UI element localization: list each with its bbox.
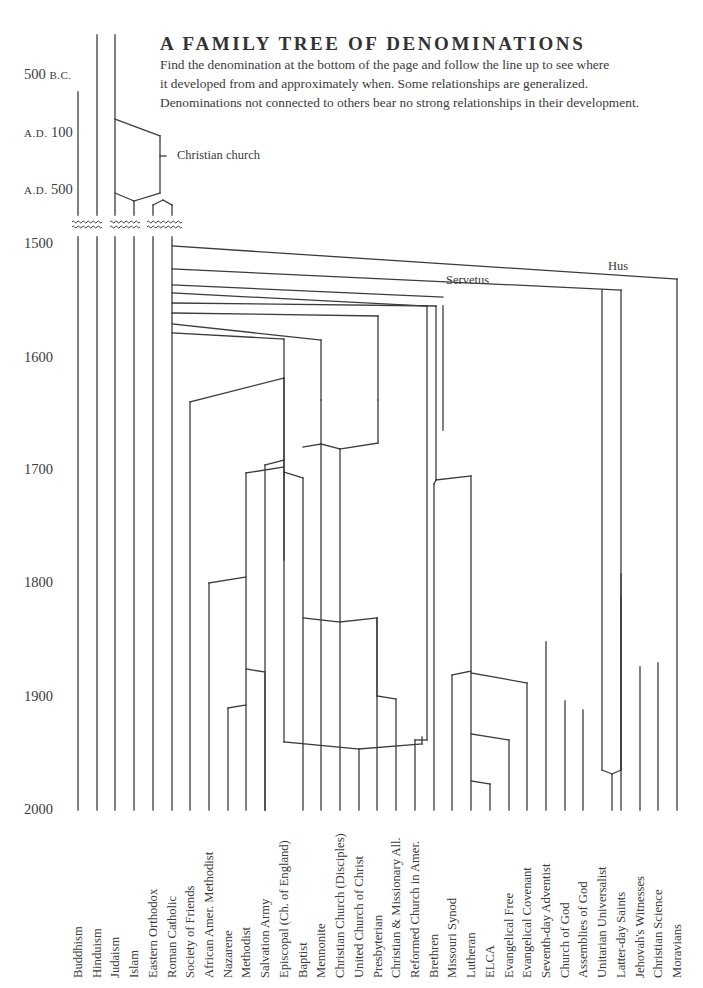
denomination-name: Evangelical Covenant xyxy=(520,867,535,978)
denomination-label: Moravians xyxy=(669,828,685,978)
denomination-label: Judaism xyxy=(107,828,123,978)
denomination-label: Reformed Church in Amer. xyxy=(407,828,423,978)
denomination-label: Lutheran xyxy=(463,828,479,978)
denomination-name: Buddhism xyxy=(71,926,86,978)
denomination-name: United Church of Christ xyxy=(351,856,366,978)
denomination-name: Christian Science xyxy=(651,890,666,978)
denomination-name: Hinduism xyxy=(89,928,104,978)
denomination-label: Salvation Army xyxy=(257,828,273,978)
denomination-label: Episcopal (Ch. of England) xyxy=(276,828,292,978)
denomination-label: ELCA xyxy=(482,828,498,978)
denomination-name: Judaism xyxy=(108,937,123,978)
denomination-label: Buddhism xyxy=(70,828,86,978)
label-hus: Hus xyxy=(608,259,628,274)
denomination-label: Evangelical Free xyxy=(501,828,517,978)
denomination-name: Society of Friends xyxy=(183,886,198,978)
denomination-name: Evangelical Free xyxy=(501,893,516,978)
denomination-name: Nazarene xyxy=(220,930,235,978)
label-servetus: Servetus xyxy=(446,273,489,288)
denomination-label: Latter-day Saints xyxy=(613,828,629,978)
denomination-label: Hinduism xyxy=(89,828,105,978)
denomination-name: Salvation Army xyxy=(258,899,273,978)
denomination-name: Presbyterian xyxy=(370,915,385,978)
denomination-label: Evangelical Covenant xyxy=(519,828,535,978)
denomination-label: Methodist xyxy=(238,828,254,978)
denomination-label: Missouri Synod xyxy=(444,828,460,978)
denomination-label: African Amer. Methodist xyxy=(201,828,217,978)
denomination-label: Seventh-day Adventist xyxy=(538,828,554,978)
denomination-label: Unitarian Universalist xyxy=(594,828,610,978)
denomination-name: ELCA xyxy=(482,945,497,978)
denomination-label: Mennonite xyxy=(313,828,329,978)
denomination-label: Islam xyxy=(126,828,142,978)
denomination-name: Methodist xyxy=(239,927,254,978)
denomination-name: Episcopal (Ch. of England) xyxy=(276,840,291,978)
denomination-label: Presbyterian xyxy=(370,828,386,978)
denomination-name: African Amer. Methodist xyxy=(202,852,217,978)
denomination-name: Church of God xyxy=(557,902,572,978)
denomination-name: Baptist xyxy=(295,942,310,978)
denomination-name: Moravians xyxy=(670,924,685,978)
denomination-label: Baptist xyxy=(295,828,311,978)
denomination-name: Seventh-day Adventist xyxy=(539,864,554,978)
denomination-label: Eastern Orthodox xyxy=(145,828,161,978)
denomination-name: Unitarian Universalist xyxy=(595,866,610,978)
denomination-label: Assemblies of God xyxy=(575,828,591,978)
label-christian-church: Christian church xyxy=(177,148,260,163)
denomination-name: Eastern Orthodox xyxy=(145,889,160,978)
denomination-label: Church of God xyxy=(557,828,573,978)
denomination-name: Christian & Missionary All. xyxy=(389,837,404,978)
denomination-name: Brethren xyxy=(426,934,441,978)
denomination-label: Nazarene xyxy=(220,828,236,978)
denomination-name: Lutheran xyxy=(464,933,479,978)
denomination-label: Christian & Missionary All. xyxy=(388,828,404,978)
denomination-name: Mennonite xyxy=(314,923,329,978)
denomination-label: Society of Friends xyxy=(182,828,198,978)
denomination-name: Roman Catholic xyxy=(164,896,179,978)
denomination-name: Jehovah's Witnesses xyxy=(632,876,647,978)
denomination-label: Christian Church (Disciples) xyxy=(332,828,348,978)
denomination-label: Jehovah's Witnesses xyxy=(632,828,648,978)
denomination-label: Roman Catholic xyxy=(164,828,180,978)
denomination-name: Islam xyxy=(127,950,142,978)
timeline-break-icon xyxy=(72,221,182,228)
denomination-name: Assemblies of God xyxy=(576,881,591,978)
denomination-name: Latter-day Saints xyxy=(613,892,628,978)
denomination-name: Reformed Church in Amer. xyxy=(407,841,422,978)
denomination-name: Christian Church (Disciples) xyxy=(333,833,348,978)
denomination-name: Missouri Synod xyxy=(445,898,460,978)
denomination-label: Brethren xyxy=(426,828,442,978)
denomination-label: United Church of Christ xyxy=(351,828,367,978)
denomination-label: Christian Science xyxy=(650,828,666,978)
